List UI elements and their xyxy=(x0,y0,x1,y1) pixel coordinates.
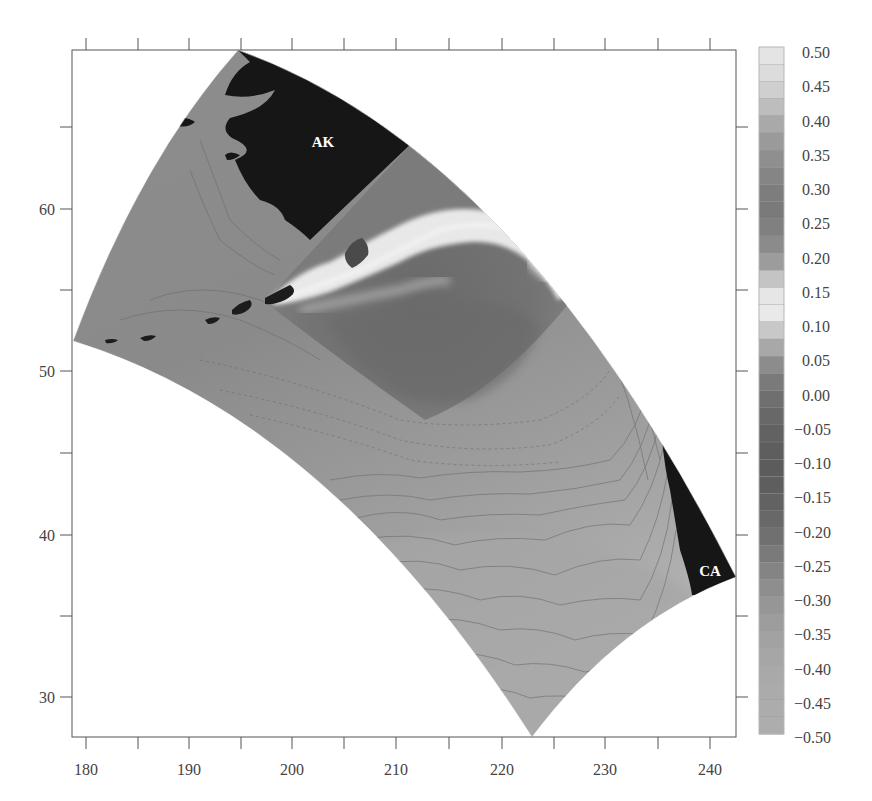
colorbar-cell xyxy=(759,287,784,304)
x-tick-labels: 180 190 200 210 220 230 240 xyxy=(74,761,722,778)
map-domain xyxy=(60,40,760,760)
colorbar-label: 0.20 xyxy=(802,250,830,267)
colorbar-label: 0.15 xyxy=(802,284,830,301)
colorbar-label: 0.40 xyxy=(802,113,830,130)
colorbar-label: 0.45 xyxy=(802,78,830,95)
colorbar-cell xyxy=(759,614,784,631)
colorbar-label: −0.45 xyxy=(794,695,831,712)
x-tick-label: 240 xyxy=(698,761,722,778)
x-tick-label: 190 xyxy=(177,761,201,778)
label-alaska: AK xyxy=(312,134,335,150)
colorbar-label: 0.30 xyxy=(802,181,830,198)
colorbar-cell xyxy=(759,700,784,717)
colorbar-cell xyxy=(759,167,784,184)
colorbar-cell xyxy=(759,305,784,322)
colorbar-cell xyxy=(759,99,784,116)
x-tick-label: 180 xyxy=(74,761,98,778)
colorbar-label: −0.15 xyxy=(794,489,831,506)
y-tick-label: 40 xyxy=(39,527,55,544)
colorbar-cell xyxy=(759,64,784,81)
colorbar-cell xyxy=(759,150,784,167)
x-tick-label: 230 xyxy=(593,761,617,778)
colorbar-cell xyxy=(759,717,784,734)
colorbar-cell xyxy=(759,494,784,511)
colorbar-label: 0.25 xyxy=(802,215,830,232)
colorbar-cell xyxy=(759,47,784,64)
colorbar-cell xyxy=(759,579,784,596)
colorbar-cell xyxy=(759,339,784,356)
colorbar-cell xyxy=(759,253,784,270)
y-tick-label: 30 xyxy=(39,689,55,706)
colorbar-cell xyxy=(759,81,784,98)
colorbar-cell xyxy=(759,562,784,579)
colorbar-cell xyxy=(759,133,784,150)
y-tick-label: 50 xyxy=(39,363,55,380)
colorbar-cell xyxy=(759,219,784,236)
colorbar-cell xyxy=(759,545,784,562)
colorbar-label: 0.10 xyxy=(802,318,830,335)
colorbar-cell xyxy=(759,236,784,253)
colorbar xyxy=(759,47,784,734)
figure: AK CA 180 190 200 210 220 23 xyxy=(0,0,872,801)
colorbar-label: 0.50 xyxy=(802,44,830,61)
y-tick-labels: 30 40 50 60 xyxy=(39,201,55,706)
colorbar-label: −0.05 xyxy=(794,421,831,438)
y-tick-label: 60 xyxy=(39,201,55,218)
colorbar-cell xyxy=(759,648,784,665)
colorbar-cell xyxy=(759,665,784,682)
label-california: CA xyxy=(699,563,721,579)
colorbar-cell xyxy=(759,511,784,528)
colorbar-label: −0.20 xyxy=(794,524,831,541)
colorbar-label: 0.05 xyxy=(802,352,830,369)
colorbar-cell xyxy=(759,373,784,390)
colorbar-label: −0.35 xyxy=(794,626,831,643)
colorbar-cell xyxy=(759,476,784,493)
colorbar-cell xyxy=(759,322,784,339)
colorbar-cell xyxy=(759,682,784,699)
colorbar-cell xyxy=(759,116,784,133)
x-tick-label: 220 xyxy=(490,761,514,778)
colorbar-cell xyxy=(759,408,784,425)
colorbar-cell xyxy=(759,184,784,201)
colorbar-label: −0.40 xyxy=(794,661,831,678)
colorbar-label: −0.10 xyxy=(794,455,831,472)
colorbar-cell xyxy=(759,528,784,545)
colorbar-label: −0.25 xyxy=(794,558,831,575)
colorbar-label: −0.50 xyxy=(794,729,831,746)
x-tick-label: 210 xyxy=(384,761,408,778)
colorbar-label: 0.00 xyxy=(802,387,830,404)
colorbar-cell xyxy=(759,442,784,459)
colorbar-cell xyxy=(759,391,784,408)
colorbar-cell xyxy=(759,597,784,614)
colorbar-cell xyxy=(759,202,784,219)
colorbar-cell xyxy=(759,356,784,373)
x-tick-label: 200 xyxy=(280,761,304,778)
colorbar-label: −0.30 xyxy=(794,592,831,609)
colorbar-cell xyxy=(759,631,784,648)
colorbar-labels: 0.500.450.400.350.300.250.200.150.100.05… xyxy=(794,44,831,746)
colorbar-cell xyxy=(759,270,784,287)
colorbar-label: 0.35 xyxy=(802,147,830,164)
colorbar-cell xyxy=(759,425,784,442)
colorbar-cell xyxy=(759,459,784,476)
